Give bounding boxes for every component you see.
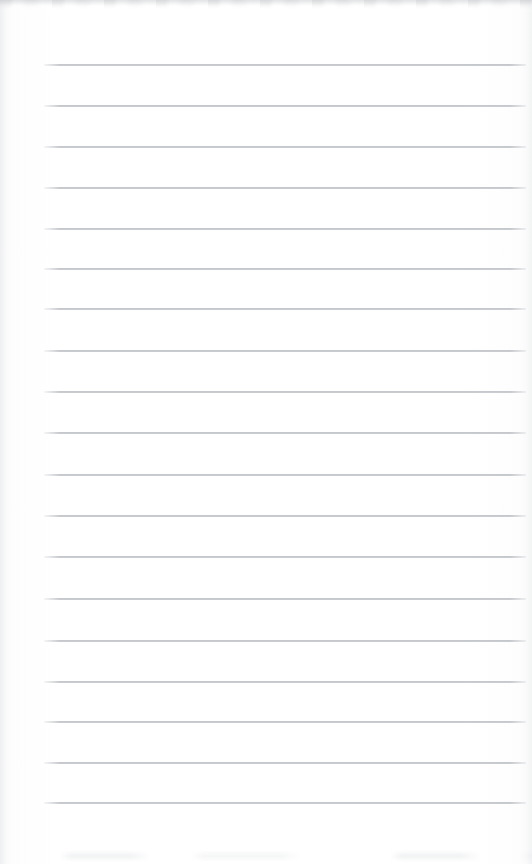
rule-line [44,762,526,764]
rule-line [44,350,526,352]
scan-bottom-smudge [0,850,532,862]
rule-line [44,515,526,517]
rule-line [44,105,526,107]
rule-line [44,228,526,230]
rule-line [44,432,526,434]
rule-line [44,391,526,393]
rule-line [44,721,526,723]
rule-line [44,308,526,310]
rule-line [44,598,526,600]
rule-line [44,268,526,270]
rule-line [44,64,526,66]
rule-line [44,556,526,558]
rule-line [44,474,526,476]
scan-top-edge-mottle [0,0,532,9]
rule-line [44,681,526,683]
rule-line [44,146,526,148]
ruled-lines-group [0,0,532,864]
rule-line [44,802,526,804]
rule-line [44,187,526,189]
rule-line [44,640,526,642]
scanned-page [0,0,532,864]
